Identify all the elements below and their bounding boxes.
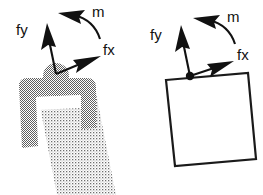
gripper-slot (36, 95, 81, 110)
free-body-diagram-figure: fy fx m fy fx m (0, 0, 263, 195)
label-fx-right: fx (237, 46, 249, 63)
label-m-left: m (92, 3, 105, 20)
label-fy-right: fy (150, 26, 162, 43)
label-m-right: m (227, 8, 240, 25)
label-fy-left: fy (16, 21, 28, 38)
label-fx-left: fx (103, 41, 115, 58)
